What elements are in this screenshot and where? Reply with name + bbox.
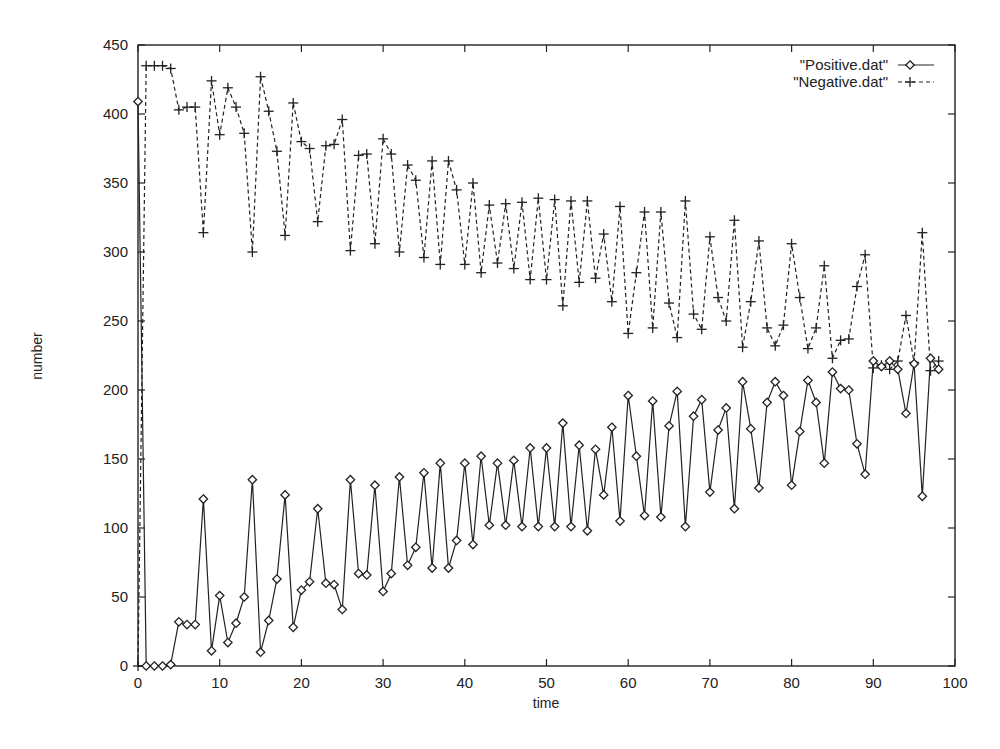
x-tick-label: 40 xyxy=(456,674,473,691)
y-tick-label: 100 xyxy=(103,519,128,536)
x-tick-label: 10 xyxy=(211,674,228,691)
y-tick-label: 50 xyxy=(111,588,128,605)
series-negative xyxy=(133,61,944,671)
legend-sample-negative xyxy=(898,77,934,87)
y-axis: 050100150200250300350400450 xyxy=(103,36,955,674)
series-layer xyxy=(133,61,944,671)
y-tick-label: 0 xyxy=(120,657,128,674)
y-tick-label: 200 xyxy=(103,381,128,398)
y-tick-label: 150 xyxy=(103,450,128,467)
x-axis-title: time xyxy=(533,695,560,711)
legend-label-positive: "Positive.dat" xyxy=(800,56,888,73)
legend-label-negative: "Negative.dat" xyxy=(793,73,888,90)
y-tick-label: 250 xyxy=(103,312,128,329)
x-tick-label: 30 xyxy=(375,674,392,691)
y-tick-label: 400 xyxy=(103,105,128,122)
y-tick-label: 300 xyxy=(103,243,128,260)
x-tick-label: 50 xyxy=(538,674,555,691)
x-tick-label: 70 xyxy=(702,674,719,691)
y-tick-label: 350 xyxy=(103,174,128,191)
legend-sample-positive xyxy=(898,61,934,69)
x-tick-label: 60 xyxy=(620,674,637,691)
series-positive xyxy=(134,97,943,670)
x-axis: 0102030405060708090100 xyxy=(134,45,968,691)
x-tick-label: 100 xyxy=(942,674,967,691)
x-tick-label: 20 xyxy=(293,674,310,691)
x-tick-label: 80 xyxy=(783,674,800,691)
legend: "Positive.dat" "Negative.dat" xyxy=(793,56,934,90)
y-axis-title: number xyxy=(29,332,45,380)
y-tick-label: 450 xyxy=(103,36,128,53)
line-chart: 0102030405060708090100 05010015020025030… xyxy=(0,0,1000,749)
x-tick-label: 90 xyxy=(865,674,882,691)
x-tick-label: 0 xyxy=(134,674,142,691)
